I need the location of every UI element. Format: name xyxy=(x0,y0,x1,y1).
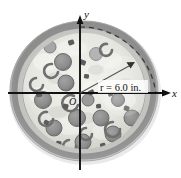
pepperoni-slice xyxy=(58,75,74,91)
pizza-polar-diagram: y x O r = 6.0 in. xyxy=(0,0,181,178)
radius-label: r = 6.0 in. xyxy=(100,82,141,93)
pepperoni-slice xyxy=(75,134,91,150)
pepperoni-slice xyxy=(82,94,94,106)
pepperoni-slice xyxy=(55,54,72,71)
x-axis-arrowhead xyxy=(162,90,171,97)
origin-label: O xyxy=(69,96,76,107)
y-axis-arrowhead xyxy=(77,15,84,24)
y-axis-label: y xyxy=(83,8,89,20)
x-axis-label: x xyxy=(171,87,177,99)
